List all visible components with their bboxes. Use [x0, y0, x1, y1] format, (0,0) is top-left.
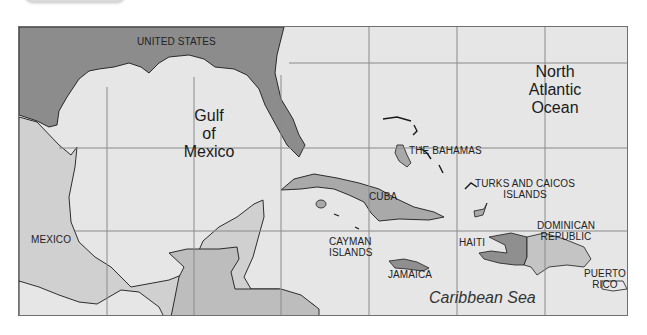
label-cayman-islands: CAYMAN ISLANDS: [329, 236, 373, 258]
dominican-line-1: DOMINICAN: [531, 220, 601, 231]
label-jamaica: JAMAICA: [388, 269, 432, 280]
gulf-line-3: Mexico: [179, 143, 239, 161]
label-haiti: HAITI: [459, 237, 485, 248]
top-tab-edge: [25, 0, 125, 2]
label-puerto-rico: PUERTO RICO: [581, 268, 628, 290]
label-the-bahamas: THE BAHAMAS: [409, 145, 482, 156]
puerto-rico-line-2: RICO: [581, 279, 628, 290]
great-inagua: [474, 203, 487, 217]
gulf-line-1: Gulf: [179, 107, 239, 125]
cayman-line-2: ISLANDS: [329, 247, 373, 258]
caribbean-map: UNITED STATES Gulf of Mexico North Atlan…: [18, 26, 628, 316]
gulf-line-2: of: [179, 125, 239, 143]
atlantic-line-1: North: [519, 63, 591, 81]
cuba-landmass: [281, 174, 444, 221]
atlantic-line-3: Ocean: [519, 99, 591, 117]
dominican-line-2: REPUBLIC: [531, 231, 601, 242]
label-dominican-republic: DOMINICAN REPUBLIC: [531, 220, 601, 242]
label-gulf-of-mexico: Gulf of Mexico: [179, 107, 239, 161]
puerto-rico-line-1: PUERTO: [581, 268, 628, 279]
haiti-landmass: [479, 233, 527, 265]
turks-line-2: ISLANDS: [465, 189, 585, 200]
turks-line-1: TURKS AND CAICOS: [465, 178, 585, 189]
label-mexico: MEXICO: [31, 234, 71, 245]
label-cuba: CUBA: [369, 191, 397, 202]
label-caribbean-sea: Caribbean Sea: [429, 289, 536, 307]
label-united-states: UNITED STATES: [137, 36, 216, 47]
label-turks-and-caicos: TURKS AND CAICOS ISLANDS: [465, 178, 585, 200]
cayman-line-1: CAYMAN: [329, 236, 373, 247]
atlantic-line-2: Atlantic: [519, 81, 591, 99]
label-north-atlantic-ocean: North Atlantic Ocean: [519, 63, 591, 117]
cayman-islands-specks: [334, 214, 359, 229]
isle-of-youth: [316, 200, 326, 208]
mexico-landmass: [19, 117, 319, 316]
